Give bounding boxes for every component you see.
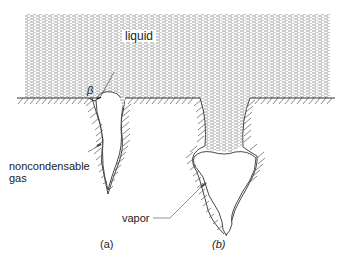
beta-label: β [87, 84, 93, 96]
noncondensable-gas-label: noncondensable gas [9, 160, 90, 184]
liquid-label: liquid [122, 30, 156, 42]
gas-label-line2: gas [9, 172, 90, 184]
gas-label-line1: noncondensable [9, 160, 90, 172]
cavity-b-vapor-bubble [194, 152, 257, 235]
liquid-region [25, 14, 330, 152]
panel-a-caption: (a) [100, 238, 113, 250]
cavity-nucleation-diagram [0, 0, 354, 265]
surface-hatching [18, 98, 332, 104]
cavity-a-gas-bubble [96, 92, 123, 190]
panel-b-caption: (b) [212, 238, 225, 250]
vapor-label: vapor [122, 212, 150, 224]
